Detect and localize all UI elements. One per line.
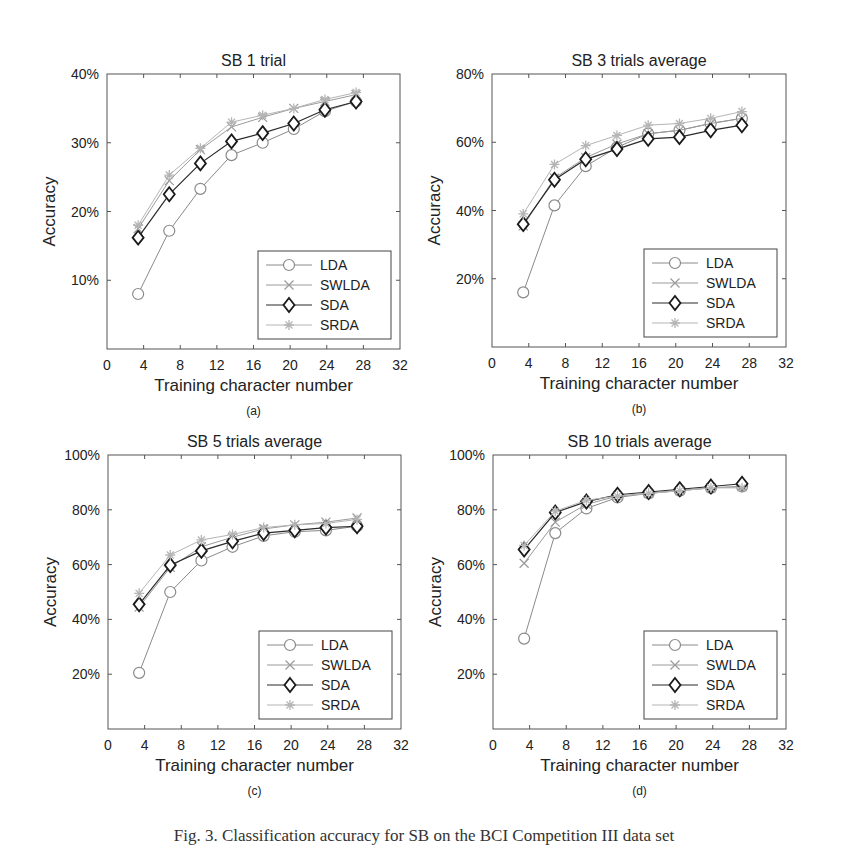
panel-label: (b) <box>632 402 647 416</box>
legend-label: LDA <box>320 257 348 273</box>
y-tick-label: 60% <box>72 557 100 573</box>
y-tick-label: 40% <box>456 203 484 219</box>
star-marker-icon <box>164 170 174 180</box>
legend-label: SWLDA <box>320 277 370 293</box>
star-marker-icon <box>550 506 560 516</box>
x-tick-label: 20 <box>282 357 298 373</box>
x-tick-label: 28 <box>356 357 372 373</box>
y-tick-label: 30% <box>71 135 99 151</box>
circle-marker-icon <box>133 289 144 300</box>
star-marker-icon <box>549 159 559 169</box>
x-tick-label: 12 <box>209 357 225 373</box>
diamond-marker-icon <box>226 134 237 148</box>
y-axis-label: Accuracy <box>41 557 60 627</box>
x-tick-label: 4 <box>526 737 534 753</box>
x-tick-label: 20 <box>668 737 684 753</box>
diamond-marker-icon <box>195 156 206 170</box>
x-tick-label: 24 <box>705 355 721 371</box>
x-tick-label: 24 <box>320 737 336 753</box>
y-tick-label: 80% <box>456 66 484 82</box>
x-tick-label: 20 <box>283 737 299 753</box>
x-tick-label: 28 <box>741 355 757 371</box>
x-tick-label: 24 <box>319 357 335 373</box>
y-tick-label: 40% <box>457 611 485 627</box>
y-tick-label: 40% <box>71 66 99 82</box>
legend-label: SRDA <box>320 317 360 333</box>
x-tick-label: 8 <box>562 355 570 371</box>
y-tick-label: 60% <box>456 134 484 150</box>
circle-marker-icon <box>195 183 206 194</box>
x-tick-label: 8 <box>176 357 184 373</box>
chart-b-svg: SB 3 trials average048121620242832Traini… <box>424 0 848 420</box>
chart-title: SB 3 trials average <box>571 52 706 69</box>
x-tick-label: 32 <box>778 737 794 753</box>
chart-panel-a: SB 1 trial048121620242832Training charac… <box>0 0 424 424</box>
chart-d-svg: SB 10 trials average048121620242832Train… <box>424 420 848 820</box>
x-tick-label: 16 <box>631 355 647 371</box>
y-tick-label: 80% <box>457 502 485 518</box>
circle-marker-icon <box>285 640 296 651</box>
x-axis-label: Training character number <box>154 376 353 395</box>
plot-area <box>519 477 748 644</box>
circle-marker-icon <box>518 287 529 298</box>
x-tick-label: 4 <box>140 357 148 373</box>
star-marker-icon <box>612 130 622 140</box>
y-tick-label: 80% <box>72 502 100 518</box>
chart-panel-b: SB 3 trials average048121620242832Traini… <box>424 0 848 424</box>
y-tick-label: 20% <box>72 666 100 682</box>
chart-title: SB 10 trials average <box>567 433 711 450</box>
star-marker-icon <box>643 120 653 130</box>
x-tick-label: 4 <box>141 737 149 753</box>
y-tick-label: 10% <box>71 272 99 288</box>
legend-label: SRDA <box>706 315 746 331</box>
star-marker-icon <box>289 103 299 113</box>
circle-marker-icon <box>550 528 561 539</box>
star-marker-icon <box>133 220 143 230</box>
x-tick-label: 24 <box>705 737 721 753</box>
star-marker-icon <box>351 88 361 98</box>
chart-panel-c: SB 5 trials average048121620242832Traini… <box>0 420 424 824</box>
legend-label: SDA <box>706 295 735 311</box>
legend: LDASWLDASDASRDA <box>259 631 392 719</box>
circle-marker-icon <box>165 587 176 598</box>
x-marker-icon <box>520 559 529 568</box>
star-marker-icon <box>518 209 528 219</box>
y-tick-label: 100% <box>449 447 485 463</box>
x-tick-label: 20 <box>668 355 684 371</box>
chart-a-svg: SB 1 trial048121620242832Training charac… <box>0 0 424 420</box>
circle-marker-icon <box>226 150 237 161</box>
legend-label: SWLDA <box>321 657 371 673</box>
x-axis-label: Training character number <box>540 374 739 393</box>
star-marker-icon <box>581 141 591 151</box>
star-marker-icon <box>196 535 206 545</box>
series-line-swlda <box>524 487 742 564</box>
panel-label: (c) <box>248 784 262 798</box>
y-tick-label: 60% <box>457 557 485 573</box>
legend: LDASWLDASDASRDA <box>644 631 777 719</box>
y-tick-label: 100% <box>64 447 100 463</box>
legend-label: SDA <box>321 677 350 693</box>
star-marker-icon <box>320 94 330 104</box>
y-tick-label: 20% <box>71 204 99 220</box>
star-marker-icon <box>670 318 680 328</box>
star-marker-icon <box>321 519 331 529</box>
x-tick-label: 12 <box>210 737 226 753</box>
x-tick-label: 0 <box>103 357 111 373</box>
star-marker-icon <box>195 143 205 153</box>
x-tick-label: 12 <box>595 737 611 753</box>
legend-label: SWLDA <box>706 657 756 673</box>
legend-label: SDA <box>320 297 349 313</box>
star-marker-icon <box>284 320 294 330</box>
legend-label: LDA <box>706 255 734 271</box>
x-tick-label: 16 <box>632 737 648 753</box>
y-tick-label: 40% <box>72 611 100 627</box>
panel-label: (a) <box>246 404 261 418</box>
star-marker-icon <box>258 110 268 120</box>
x-axis-label: Training character number <box>540 756 739 775</box>
circle-marker-icon <box>284 260 295 271</box>
x-tick-label: 12 <box>594 355 610 371</box>
y-tick-label: 20% <box>456 271 484 287</box>
chart-c-svg: SB 5 trials average048121620242832Traini… <box>0 420 424 820</box>
x-tick-label: 28 <box>357 737 373 753</box>
circle-marker-icon <box>670 640 681 651</box>
